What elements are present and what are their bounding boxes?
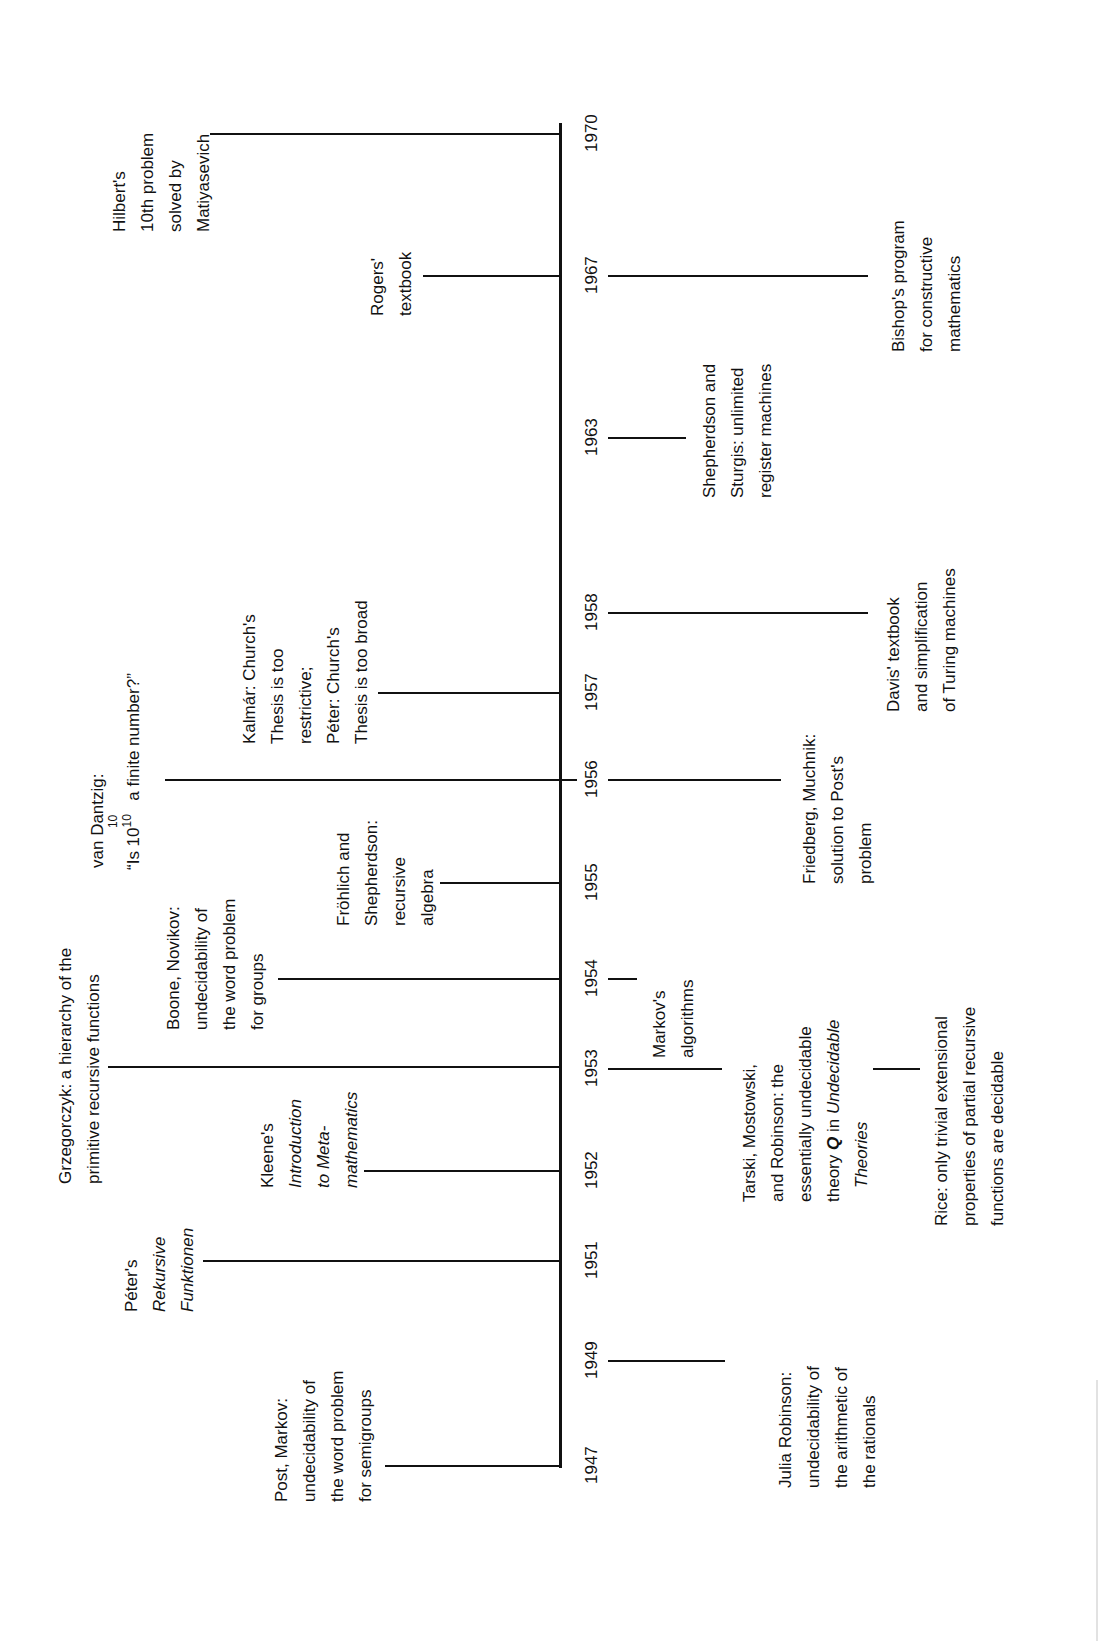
year-label-1958: 1958 (582, 593, 602, 631)
tick-1953-below (608, 1068, 722, 1070)
event-1958-davis: Davis' textbook and simplification of Tu… (880, 568, 964, 712)
tick-1958-below (608, 612, 868, 614)
tick-1953-rice (873, 1068, 920, 1070)
event-1963-shepherdson-sturgis: Shepherdson and Sturgis: unlimited regis… (696, 364, 780, 498)
event-1956-friedberg: Friedberg, Muchnik: solution to Post's p… (796, 734, 880, 884)
event-1951-peter: Péter's Rekursive Funktionen (118, 1228, 202, 1312)
tick-1947-above (385, 1465, 560, 1467)
tick-1956-above (165, 779, 577, 781)
event-1956-van-dantzig: van Dantzig: “Is 101010a finite number?” (84, 673, 149, 870)
tick-1949-below (608, 1360, 725, 1362)
event-1967-rogers: Rogers' textbook (364, 252, 420, 316)
event-1957-kalmar: Kalmár: Church's Thesis is too restricti… (236, 600, 376, 744)
tick-1970-above (210, 133, 560, 135)
year-label-1957: 1957 (582, 673, 602, 711)
year-label-1970: 1970 (582, 114, 602, 152)
tick-1955-above (440, 882, 560, 884)
year-label-1963: 1963 (582, 418, 602, 456)
tick-1954-below (608, 978, 637, 980)
event-1967-bishop: Bishop's program for constructive mathem… (885, 220, 969, 352)
event-1955-frohlich: Fröhlich and Shepherdson: recursive alge… (330, 820, 442, 926)
event-1947-post-markov: Post, Markov: undecidability of the word… (268, 1371, 380, 1502)
timeline-axis (559, 123, 562, 1468)
year-label-1956: 1956 (582, 760, 602, 798)
tick-1967-below (608, 275, 868, 277)
tick-1957-above (378, 692, 560, 694)
event-1952-kleene: Kleene's Introduction to Meta- mathemati… (254, 1092, 366, 1188)
event-1970-hilbert: Hilbert's 10th problem solved by Matiyas… (106, 133, 218, 232)
year-label-1967: 1967 (582, 256, 602, 294)
year-label-1951: 1951 (582, 1241, 602, 1279)
event-1953-tarski: Tarski, Mostowski, and Robinson: the ess… (736, 1020, 876, 1202)
year-label-1955: 1955 (582, 863, 602, 901)
event-1954-markov-algorithms: Markov's algorithms (646, 980, 702, 1058)
year-label-1949: 1949 (582, 1341, 602, 1379)
year-label-1954: 1954 (582, 959, 602, 997)
year-label-1953: 1953 (582, 1049, 602, 1087)
event-1949-julia-robinson: Julia Robinson: undecidability of the ar… (772, 1366, 884, 1488)
tick-1952-above (364, 1170, 560, 1172)
tick-1963-below (608, 437, 686, 439)
tick-1951-above (203, 1260, 560, 1262)
event-1953-grzegorczyk: Grzegorczyk: a hierarchy of the primitiv… (52, 948, 108, 1184)
event-1953-rice: Rice: only trivial extensional propertie… (928, 1007, 1012, 1226)
event-1954-boone: Boone, Novikov: undecidability of the wo… (160, 899, 272, 1030)
year-label-1952: 1952 (582, 1151, 602, 1189)
tick-1953-above (108, 1066, 560, 1068)
page-edge-shadow (1096, 1380, 1098, 1641)
tick-1967-above (423, 275, 560, 277)
tick-1954-above (278, 978, 560, 980)
tick-1956-below (608, 779, 781, 781)
year-label-1947: 1947 (582, 1446, 602, 1484)
